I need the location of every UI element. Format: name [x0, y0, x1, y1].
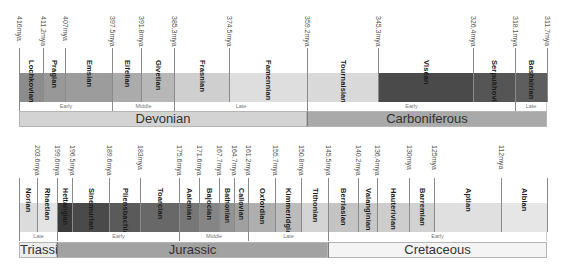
stage-name: Bathonian: [223, 188, 232, 223]
stage-norian: Norian: [19, 178, 38, 232]
subepoch-middle: Middle: [112, 102, 174, 111]
age-tick-label: 416mya: [15, 16, 23, 41]
stage-name: Famennian: [264, 60, 273, 101]
age-tick-label: 318.1mya: [511, 16, 519, 47]
stage-rhaetian: Rhaetian: [37, 178, 58, 232]
stage-name: Rhaetian: [43, 188, 52, 220]
stage-toarcian: Toarcian: [140, 178, 180, 232]
stage-name: Bajocian: [205, 188, 214, 220]
stage-pliensbachian: Pliensbachian: [109, 178, 141, 232]
stage-name: Berriasian: [339, 188, 348, 226]
stage-berriasian: Berriasian: [328, 178, 359, 232]
age-tick-label: 155.7mya: [271, 145, 279, 176]
subepoch-late: Late: [174, 102, 307, 111]
age-tick-label: 145.5mya: [324, 145, 332, 176]
period-jurassic: Jurassic: [57, 242, 328, 258]
stage-name: Hettangian: [61, 188, 70, 225]
stage-name: Eifelian: [123, 60, 132, 87]
age-tick-label: 164.7mya: [230, 145, 238, 176]
stage-eifelian: Eifelian: [112, 48, 142, 102]
stage-callovian: Callovian: [234, 178, 249, 232]
subepoch-late: Late: [248, 232, 328, 241]
age-tick-label: 140.2mya: [354, 145, 362, 176]
stage-emsian: Emsian: [65, 48, 113, 102]
age-tick-label: 407mya: [61, 16, 69, 41]
stage-name: Valanginian: [364, 188, 373, 231]
age-tick-label: 125mya: [430, 145, 438, 170]
stage-name: Callovian: [237, 188, 246, 220]
stage-bashkirian: Bashkirian: [515, 48, 548, 102]
subepoch-late: Late: [515, 102, 547, 111]
age-tick-label: 196.5mya: [68, 145, 76, 176]
stage-oxfordian: Oxfordian: [248, 178, 276, 232]
age-tick-label: 136.4mya: [373, 145, 381, 176]
age-tick-label: 385.3mya: [170, 16, 178, 47]
age-tick-label: 161.2mya: [244, 145, 252, 176]
stage-name: Emsian: [85, 60, 94, 87]
stage-name: Aptian: [464, 188, 473, 212]
stage-name: Lochkovian: [27, 60, 36, 103]
stage-frasnian: Frasnian: [174, 48, 230, 102]
stage-name: Pragian: [50, 60, 59, 88]
stage-tournaisian: Tournaisian: [307, 48, 379, 102]
stage-barremian: Barremian: [409, 178, 435, 232]
period-cretaceous: Cretaceous: [328, 242, 547, 258]
stage-serpukhovian: Serpukhovian: [473, 48, 516, 102]
stage-visan: Viséan: [378, 48, 474, 102]
stage-tithonian: Tithonian: [301, 178, 329, 232]
stage-givetian: Givetian: [141, 48, 175, 102]
period-devonian: Devonian: [19, 111, 307, 127]
stage-name: Givetian: [154, 60, 163, 90]
subepoch-early: Early: [307, 102, 515, 111]
age-tick-label: 183mya: [136, 145, 144, 170]
stage-name: Norian: [24, 188, 33, 212]
stage-name: Aalenian: [185, 188, 194, 220]
stage-albian: Albian: [501, 178, 548, 232]
stage-bathonian: Bathonian: [219, 178, 235, 232]
age-tick-label: 189.6mya: [105, 145, 113, 176]
stage-name: Tithonian: [311, 188, 320, 223]
stage-lochkovian: Lochkovian: [19, 48, 44, 102]
age-tick-label: 374.5mya: [225, 16, 233, 47]
subepoch-late: Late: [19, 232, 57, 241]
stage-name: Sinemurian: [87, 188, 96, 230]
subepoch-early: Early: [19, 102, 112, 111]
age-tick-label: 175.6mya: [175, 145, 183, 176]
stage-valanginian: Valanginian: [358, 178, 378, 232]
age-tick-label: 167.7mya: [215, 145, 223, 176]
stage-hauterivian: Hauterivian: [377, 178, 410, 232]
stage-aalenian: Aalenian: [179, 178, 200, 232]
stage-name: Oxfordian: [258, 188, 267, 224]
age-tick-label: 171.6mya: [195, 145, 203, 176]
stage-name: Barremian: [418, 188, 427, 226]
period-carboniferous: Carboniferous: [307, 111, 547, 127]
age-tick-label: 199.6mya: [53, 145, 61, 176]
age-tick-label: 397.5mya: [108, 16, 116, 47]
subepoch-early: Early: [328, 232, 547, 241]
stage-pragian: Pragian: [43, 48, 66, 102]
age-tick-label: 150.8mya: [297, 145, 305, 176]
stage-famennian: Famennian: [229, 48, 308, 102]
stage-aptian: Aptian: [434, 178, 502, 232]
age-tick-label: 345.3mya: [374, 16, 382, 47]
stage-name: Tournaisian: [339, 60, 348, 103]
stage-name: Toarcian: [156, 188, 165, 220]
period-triassic: Triassic: [19, 242, 57, 258]
age-tick-label: 326.4mya: [469, 16, 477, 47]
stage-name: Bashkirian: [527, 60, 536, 99]
age-tick-label: 130mya: [405, 145, 413, 170]
subepoch-early: Early: [57, 232, 179, 241]
stage-name: Viséan: [422, 60, 431, 85]
stage-hettangian: Hettangian: [57, 178, 73, 232]
stage-name: Albian: [520, 188, 529, 212]
age-tick-label: 311.7mya: [543, 16, 551, 46]
stage-name: Hauterivian: [389, 188, 398, 230]
age-tick-label: 391.8mya: [137, 16, 145, 47]
subepoch-middle: Middle: [179, 232, 248, 241]
age-tick-label: 203.6mya: [33, 145, 41, 176]
age-tick-label: 359.2mya: [303, 16, 311, 47]
age-tick-label: 411.2mya: [39, 16, 47, 46]
stage-kimmeridgian: Kimmeridgian: [275, 178, 302, 232]
stage-name: Frasnian: [198, 60, 207, 92]
age-tick-label: 112mya: [497, 145, 505, 169]
